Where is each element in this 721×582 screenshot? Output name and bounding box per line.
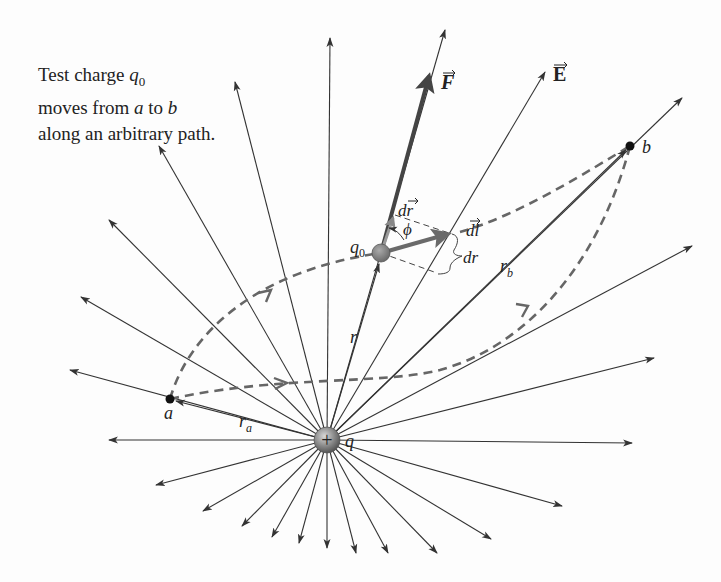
field-line (327, 358, 654, 440)
field-line (327, 440, 632, 443)
field-line (327, 440, 356, 553)
point-b (626, 142, 635, 151)
dr-brace (438, 234, 462, 274)
field-line (327, 440, 388, 553)
field-line (242, 440, 327, 526)
field-line (156, 440, 327, 485)
label-point-b: b (642, 137, 651, 157)
chevron-arrow-icon (258, 290, 271, 302)
path-direction-arrows (258, 290, 528, 389)
field-line (203, 440, 327, 511)
label-F: F (440, 71, 455, 93)
label-rb: rb (500, 256, 513, 280)
label-dr-scalar: dr (463, 248, 479, 267)
diagram-labels: F E dr dl ϕ dr q0 r rb ra a b q (164, 62, 651, 451)
caption-line-2: moves from a to b (38, 95, 215, 121)
caption-line-1: Test charge q0 (38, 62, 215, 95)
field-line (81, 297, 327, 440)
test-charge-q0 (372, 244, 390, 262)
field-line (327, 440, 562, 506)
label-r: r (350, 327, 358, 347)
field-line (299, 440, 327, 543)
label-dr-vector: dr (398, 201, 414, 220)
label-ra: ra (239, 411, 252, 435)
field-line (159, 146, 327, 440)
label-point-a: a (164, 403, 173, 423)
path-upper (170, 253, 381, 399)
label-phi: ϕ (403, 220, 412, 239)
dl-vector (381, 234, 448, 253)
field-line (272, 440, 327, 537)
field-line (109, 220, 327, 440)
caption-text: Test charge q0 moves from a to b along a… (38, 62, 215, 147)
label-source-q: q (345, 431, 354, 451)
label-E: E (553, 63, 566, 85)
caption-line-3: along an arbitrary path. (38, 121, 215, 147)
radius-rb-line (327, 150, 626, 440)
phi-angle-arc (389, 228, 404, 240)
plus-icon: + (321, 429, 332, 451)
label-q0: q0 (350, 237, 365, 260)
chevron-arrow-icon (516, 304, 528, 317)
radius-r-line (327, 264, 379, 440)
